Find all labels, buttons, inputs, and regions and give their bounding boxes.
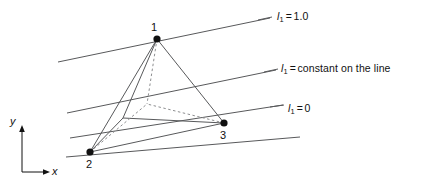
figure-container: 1 2 3 l1=1.0 l1=constant on the line l1=… <box>0 0 424 182</box>
edge-1-4-hidden <box>147 39 157 104</box>
node-3-marker <box>220 119 227 126</box>
leader-line-bottom <box>270 105 284 107</box>
iso-bottom-equals: = <box>297 102 303 114</box>
x-axis-label: x <box>52 166 58 177</box>
iso-line-middle <box>67 70 276 113</box>
iso-line-bottom-label: l1=0 <box>288 103 310 114</box>
node-1-marker <box>153 35 160 42</box>
iso-top-subscript: 1 <box>279 15 283 24</box>
iso-middle-equals: = <box>290 62 296 74</box>
iso-top-value: 1.0 <box>293 10 308 22</box>
iso-top-equals: = <box>286 10 292 22</box>
edge-front-2 <box>90 118 123 152</box>
diagram-svg <box>0 0 424 182</box>
y-axis-arrowhead <box>19 125 25 132</box>
node-3-label: 3 <box>220 130 226 141</box>
iso-middle-value: constant on the line <box>297 62 390 74</box>
iso-line-top <box>58 18 270 62</box>
edge-2-4-hidden <box>90 104 147 152</box>
edge-1-2 <box>90 39 157 152</box>
node-2-marker <box>86 148 93 155</box>
iso-line-top-label: l1=1.0 <box>277 11 308 22</box>
x-axis-arrowhead <box>43 169 50 175</box>
node-2-label: 2 <box>86 159 92 170</box>
tetrahedron-hidden-edges <box>90 39 224 152</box>
node-1-label: 1 <box>151 22 157 33</box>
edge-1-3 <box>157 39 224 123</box>
iso-bottom-subscript: 1 <box>290 107 294 116</box>
iso-line-middle-label: l1=constant on the line <box>281 63 391 74</box>
axes-group <box>19 125 50 175</box>
y-axis-label: y <box>10 116 16 127</box>
iso-middle-subscript: 1 <box>283 67 287 76</box>
edge-1-front <box>123 39 157 118</box>
iso-bottom-value: 0 <box>304 102 310 114</box>
edge-2-3 <box>90 123 224 152</box>
